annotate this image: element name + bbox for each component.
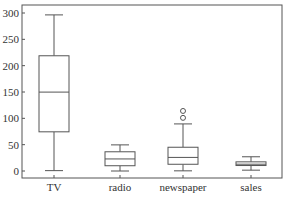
y-tick-label: 50: [8, 139, 20, 151]
iqr-box: [236, 162, 266, 166]
x-tick-label: radio: [109, 181, 132, 193]
box-sales: [236, 157, 266, 170]
y-tick-label: 0: [14, 165, 20, 177]
y-tick-label: 250: [3, 33, 20, 45]
box-plot-chart: 050100150200250300 TVradionewspapersales: [0, 0, 285, 201]
box-newspaper: [168, 108, 198, 170]
iqr-box: [168, 147, 198, 164]
y-tick-label: 150: [3, 86, 20, 98]
x-tick-label: TV: [47, 181, 62, 193]
flier-point: [181, 108, 186, 113]
iqr-box: [39, 56, 69, 132]
x-tick-label: newspaper: [159, 181, 206, 193]
flier-point: [181, 115, 186, 120]
y-tick-label: 300: [3, 7, 20, 19]
x-tick-label: sales: [240, 181, 261, 193]
box-radio: [105, 145, 135, 171]
box-tv: [39, 15, 69, 171]
y-tick-label: 100: [3, 112, 20, 124]
y-tick-label: 200: [3, 60, 20, 72]
boxes: [39, 15, 266, 171]
